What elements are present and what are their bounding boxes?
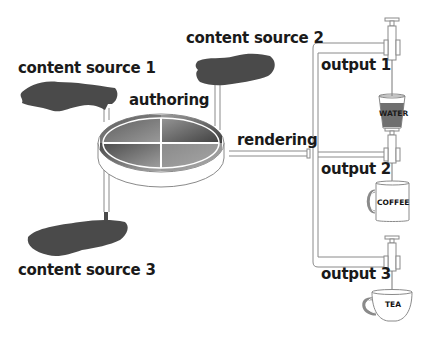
source-3-spout xyxy=(104,212,108,222)
tea-label: TEA xyxy=(385,300,401,309)
content-source-2-blob xyxy=(196,54,275,86)
faucet-3 xyxy=(384,236,400,292)
content-source-3-blob xyxy=(28,220,128,256)
rendering-label: rendering xyxy=(237,131,317,149)
coffee-label: COFFEE xyxy=(377,198,409,207)
pipe-source-2 xyxy=(215,84,220,130)
pipe-manifold xyxy=(313,43,386,267)
pipe-source-1 xyxy=(104,108,109,122)
pipe-source-3 xyxy=(104,168,109,212)
output-1-label: output 1 xyxy=(321,56,391,74)
pipe-rendering xyxy=(229,151,308,156)
content-source-1-label: content source 1 xyxy=(18,59,156,77)
content-source-1-blob xyxy=(21,82,118,112)
authoring-hub xyxy=(98,114,224,187)
hub-segment-top-right xyxy=(161,115,222,143)
output-2-label: output 2 xyxy=(321,160,391,178)
content-source-3-label: content source 3 xyxy=(18,261,156,279)
authoring-label: authoring xyxy=(129,91,209,109)
water-label: WATER xyxy=(379,109,408,118)
output-3-label: output 3 xyxy=(321,265,391,283)
content-source-2-label: content source 2 xyxy=(186,29,324,47)
